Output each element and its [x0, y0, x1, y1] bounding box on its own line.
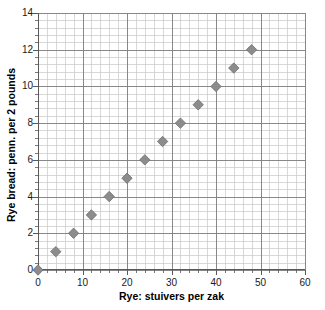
y-tick-label: 12	[11, 44, 33, 56]
data-point	[193, 100, 203, 110]
data-point	[229, 63, 239, 73]
data-point	[104, 191, 114, 201]
x-tick-label: 30	[160, 276, 184, 289]
y-tick-label: 6	[11, 154, 33, 166]
data-point	[175, 118, 185, 128]
y-tick-label: 2	[11, 227, 33, 239]
x-tick-label: 0	[26, 276, 50, 289]
y-tick-label: 14	[11, 7, 33, 19]
data-point	[246, 45, 256, 55]
data-point	[51, 246, 61, 256]
plot-area	[38, 13, 305, 270]
scatter-chart-figure: Rye bread: penn. per 2 pounds 0246810121…	[0, 0, 325, 310]
y-tick-label: 8	[11, 117, 33, 129]
data-point	[157, 136, 167, 146]
data-point	[140, 155, 150, 165]
x-tick-label: 40	[204, 276, 228, 289]
data-point	[86, 210, 96, 220]
data-point	[68, 228, 78, 238]
data-point	[122, 173, 132, 183]
y-tick-label: 0	[11, 264, 33, 276]
x-axis-title: Rye: stuivers per zak	[38, 290, 305, 302]
data-point	[33, 265, 43, 275]
x-tick-label: 50	[249, 276, 273, 289]
y-tick-label: 4	[11, 191, 33, 203]
data-point	[211, 81, 221, 91]
x-tick-label: 60	[293, 276, 317, 289]
x-tick-label: 10	[71, 276, 95, 289]
x-tick-label: 20	[115, 276, 139, 289]
y-tick-label: 10	[11, 80, 33, 92]
data-points	[38, 13, 305, 270]
data-point-layer	[38, 13, 305, 270]
